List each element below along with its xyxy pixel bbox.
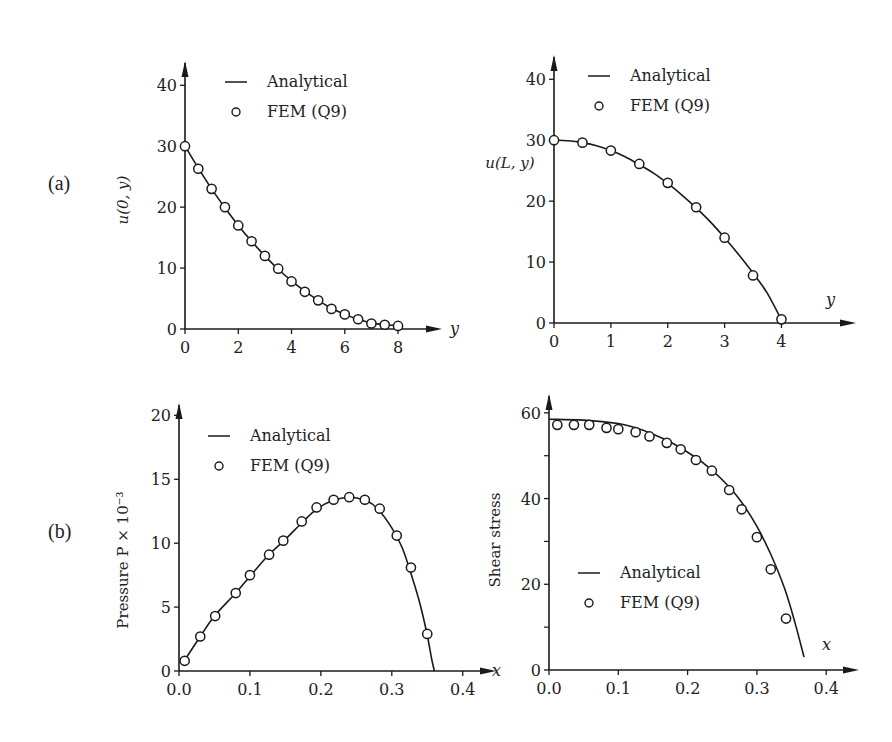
x-tick-label: 4 xyxy=(286,338,296,357)
analytical-curve xyxy=(185,146,398,325)
x-tick-label: 4 xyxy=(776,332,786,351)
y-tick-label: 20 xyxy=(526,192,546,211)
fem-data-point xyxy=(287,277,296,286)
fem-data-point xyxy=(720,233,729,242)
chart-uLy: 01020304001234yu(L, y)AnalyticalFEM (Q9) xyxy=(485,55,856,351)
fem-data-point xyxy=(380,320,389,329)
x-axis-arrow-icon xyxy=(843,667,859,674)
fem-data-point xyxy=(766,565,775,574)
fem-data-point xyxy=(645,432,654,441)
chart-u0y: 01020304002468yu(0, y)AnalyticalFEM (Q9) xyxy=(114,61,460,357)
y-tick-label: 5 xyxy=(161,598,171,617)
fem-data-point xyxy=(602,423,611,432)
fem-data-point xyxy=(777,315,786,324)
y-tick-label: 40 xyxy=(526,70,546,89)
fem-data-point xyxy=(180,656,189,665)
x-tick-label: 8 xyxy=(393,338,403,357)
y-tick-label: 0 xyxy=(536,314,546,333)
fem-data-point xyxy=(692,203,701,212)
y-tick-label: 0 xyxy=(161,662,171,681)
x-axis-label: y xyxy=(449,319,460,338)
x-tick-label: 0.1 xyxy=(606,679,631,698)
fem-data-point xyxy=(279,536,288,545)
fem-data-point xyxy=(207,184,216,193)
fem-data-point xyxy=(585,420,594,429)
fem-data-point xyxy=(231,588,240,597)
fem-data-point xyxy=(247,237,256,246)
fem-data-point xyxy=(725,485,734,494)
fem-data-point xyxy=(345,493,354,502)
y-tick-label: 60 xyxy=(521,404,541,423)
legend-label-fem: FEM (Q9) xyxy=(250,456,330,475)
x-tick-label: 0.4 xyxy=(813,679,838,698)
fem-data-point xyxy=(260,251,269,260)
x-tick-label: 0 xyxy=(180,338,190,357)
fem-data-point xyxy=(406,563,415,572)
fem-data-point xyxy=(635,159,644,168)
y-axis-label: Shear stress xyxy=(486,493,504,588)
fem-data-point xyxy=(614,425,623,434)
y-tick-label: 30 xyxy=(526,131,546,150)
y-tick-label: 10 xyxy=(157,259,177,278)
fem-data-point xyxy=(737,505,746,514)
fem-data-point xyxy=(663,178,672,187)
fem-data-point xyxy=(748,271,757,280)
fem-data-point xyxy=(691,455,700,464)
legend: AnalyticalFEM (Q9) xyxy=(588,66,711,115)
y-axis-arrow-icon xyxy=(546,394,553,410)
x-tick-label: 0 xyxy=(549,332,559,351)
y-tick-label: 15 xyxy=(151,470,171,489)
y-axis-label: u(L, y) xyxy=(485,154,534,172)
fem-data-point xyxy=(327,304,336,313)
y-axis-arrow-icon xyxy=(182,61,189,77)
legend-label-analytical: Analytical xyxy=(249,426,331,445)
fem-data-point xyxy=(393,321,402,330)
y-tick-label: 20 xyxy=(157,198,177,217)
x-tick-label: 6 xyxy=(340,338,350,357)
fem-data-point xyxy=(196,632,205,641)
y-axis-label: u(0, y) xyxy=(114,175,132,224)
analytical-curve xyxy=(549,419,804,657)
x-axis-arrow-icon xyxy=(426,326,442,333)
fem-data-point xyxy=(300,287,309,296)
x-tick-label: 2 xyxy=(663,332,673,351)
legend: AnalyticalFEM (Q9) xyxy=(208,426,331,475)
fem-data-point xyxy=(569,420,578,429)
y-axis-arrow-icon xyxy=(176,403,183,419)
fem-markers xyxy=(180,493,432,666)
fem-data-point xyxy=(245,571,254,580)
fem-markers xyxy=(180,142,402,331)
x-tick-label: 0.2 xyxy=(308,680,333,699)
fem-data-point xyxy=(631,428,640,437)
legend-label-analytical: Analytical xyxy=(266,72,348,91)
fem-data-point xyxy=(340,310,349,319)
fem-markers xyxy=(549,136,786,324)
fem-data-point xyxy=(353,315,362,324)
axes: 051015200.00.10.20.30.4 xyxy=(151,403,496,699)
fem-data-point xyxy=(274,264,283,273)
fem-data-point xyxy=(423,629,432,638)
x-tick-label: 0.3 xyxy=(744,679,769,698)
y-tick-label: 10 xyxy=(526,253,546,272)
fem-data-point xyxy=(553,420,562,429)
fem-data-point xyxy=(781,614,790,623)
fem-data-point xyxy=(360,495,369,504)
legend-label-analytical: Analytical xyxy=(629,66,711,85)
fem-data-point xyxy=(180,142,189,151)
x-tick-label: 3 xyxy=(719,332,729,351)
fem-data-point xyxy=(578,138,587,147)
fem-data-point xyxy=(297,517,306,526)
chart-canvas: 01020304002468yu(0, y)AnalyticalFEM (Q9)… xyxy=(0,0,892,742)
fem-data-point xyxy=(676,445,685,454)
fem-data-point xyxy=(264,550,273,559)
x-tick-label: 0.3 xyxy=(379,680,404,699)
analytical-curve xyxy=(183,497,435,671)
y-tick-label: 0 xyxy=(531,661,541,680)
fem-data-point xyxy=(375,504,384,513)
fem-data-point xyxy=(211,611,220,620)
fem-data-point xyxy=(752,533,761,542)
fem-data-point xyxy=(707,466,716,475)
legend-circle-icon xyxy=(232,108,240,116)
y-tick-label: 10 xyxy=(151,534,171,553)
x-tick-label: 0.4 xyxy=(450,680,475,699)
